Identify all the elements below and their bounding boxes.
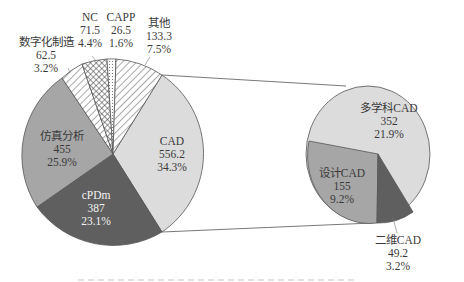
figure-caption-clipped xyxy=(78,268,378,282)
svg-text:多学科CAD: 多学科CAD xyxy=(360,101,417,114)
svg-text:7.5%: 7.5% xyxy=(147,43,171,55)
label-cad: CAD 556.2 34.3% xyxy=(157,135,187,173)
label-digital-manufacturing: 数字化制造 62.5 3.2% xyxy=(19,35,75,74)
svg-text:数字化制造: 数字化制造 xyxy=(19,35,75,48)
svg-text:49.2: 49.2 xyxy=(388,247,408,259)
svg-text:其他: 其他 xyxy=(148,17,171,29)
svg-text:556.2: 556.2 xyxy=(159,148,185,160)
leader-nc xyxy=(92,56,96,61)
svg-text:21.9%: 21.9% xyxy=(374,128,404,140)
svg-text:CAD: CAD xyxy=(160,135,184,147)
svg-text:4.4%: 4.4% xyxy=(78,37,102,49)
svg-text:387: 387 xyxy=(87,202,105,214)
label-capp: CAPP 26.5 1.6% xyxy=(107,11,136,49)
connector-line-bottom xyxy=(162,223,372,232)
label-2d-cad: 二维CAD 49.2 3.2% xyxy=(375,234,421,272)
svg-text:设计CAD: 设计CAD xyxy=(319,167,365,179)
svg-text:455: 455 xyxy=(53,143,71,155)
svg-text:25.9%: 25.9% xyxy=(47,156,77,168)
leader-other xyxy=(145,57,150,65)
svg-text:155: 155 xyxy=(333,180,351,192)
connector-line-top xyxy=(162,75,346,86)
svg-text:CAPP: CAPP xyxy=(107,11,136,23)
svg-text:3.2%: 3.2% xyxy=(34,62,58,74)
svg-text:71.5: 71.5 xyxy=(80,24,100,36)
svg-text:3.2%: 3.2% xyxy=(386,260,410,272)
svg-text:34.3%: 34.3% xyxy=(157,161,187,173)
svg-text:352: 352 xyxy=(380,115,398,127)
svg-text:1.6%: 1.6% xyxy=(109,37,133,49)
svg-text:26.5: 26.5 xyxy=(111,24,131,36)
svg-text:62.5: 62.5 xyxy=(36,49,56,61)
pie-of-pie-chart: 数字化制造 62.5 3.2% NC 71.5 4.4% CAPP 26.5 1… xyxy=(0,0,464,282)
svg-text:cPDm: cPDm xyxy=(82,189,111,201)
svg-text:仿真分析: 仿真分析 xyxy=(40,129,84,142)
svg-text:NC: NC xyxy=(82,11,98,23)
label-other: 其他 133.3 7.5% xyxy=(146,17,172,55)
svg-text:133.3: 133.3 xyxy=(146,30,172,42)
svg-text:23.1%: 23.1% xyxy=(81,215,111,227)
svg-text:二维CAD: 二维CAD xyxy=(375,234,421,246)
label-nc: NC 71.5 4.4% xyxy=(78,11,102,49)
svg-text:9.2%: 9.2% xyxy=(330,193,354,205)
